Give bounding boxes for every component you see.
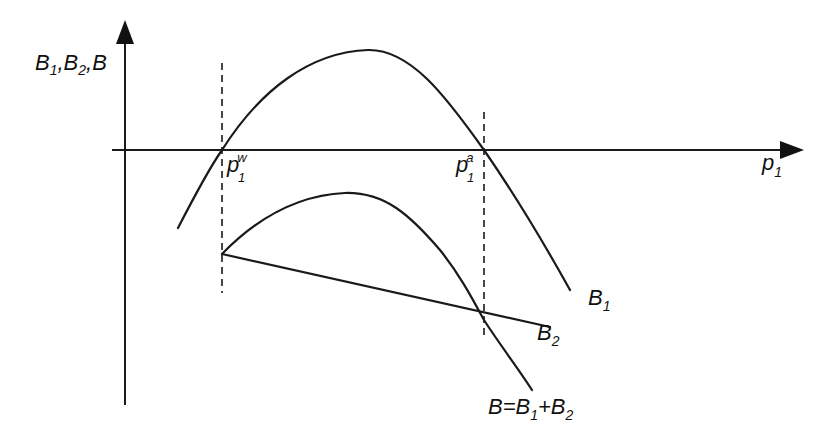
- y-axis-arrow-icon: [116, 20, 134, 44]
- diagram-canvas: B1,B2,B p1 pw 1 pa 1 B1 B2 B=B1+B2: [0, 0, 832, 428]
- y-axis-label: B1,B2,B: [35, 50, 107, 78]
- curve-b2-label: B2: [537, 320, 560, 349]
- curve-b1-label: B1: [588, 285, 610, 314]
- marker-sub-pa: 1: [467, 170, 474, 185]
- curve-b-label: B=B1+B2: [488, 394, 574, 423]
- marker-sub-pw: 1: [238, 170, 245, 185]
- curve-b: [222, 193, 532, 390]
- x-axis-arrow-icon: [780, 141, 804, 159]
- line-b2: [222, 254, 550, 327]
- x-axis-label: p1: [761, 150, 782, 180]
